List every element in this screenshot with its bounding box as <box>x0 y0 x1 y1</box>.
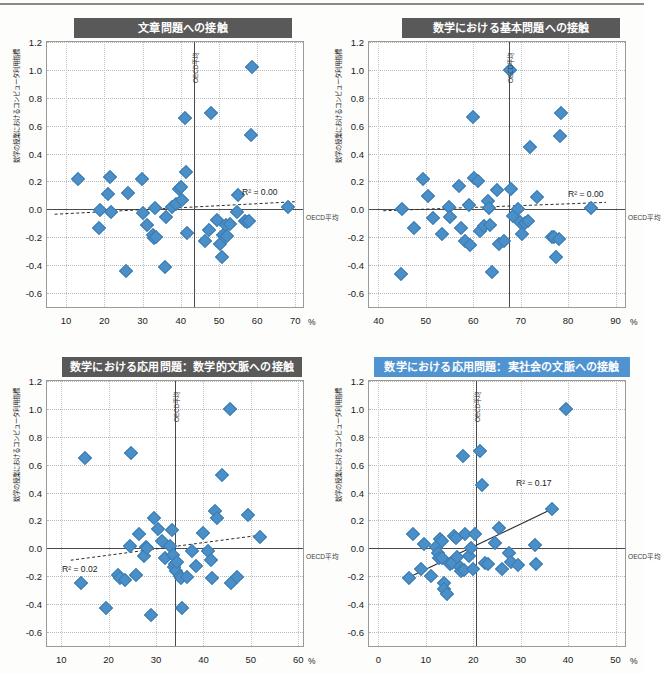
x-axis-tick-label: 40 <box>168 315 194 326</box>
y-axis-tick-label: 0.2 <box>338 515 364 526</box>
y-axis-tick-label: 0.0 <box>16 543 42 554</box>
y-axis-tick-label: -0.4 <box>338 260 364 271</box>
y-axis-tick-label: 1.2 <box>16 376 42 387</box>
y-axis-tick-label: -0.2 <box>16 571 42 582</box>
plot-area-1 <box>46 41 304 308</box>
x-axis-tick-label: 70 <box>508 315 534 326</box>
y-axis-tick-label: -0.4 <box>338 599 364 610</box>
x-axis-tick-label: 30 <box>130 315 156 326</box>
y-axis-tick-label: -0.4 <box>16 260 42 271</box>
x-axis-unit-label: % <box>308 317 316 327</box>
x-axis-tick-label: 60 <box>460 315 486 326</box>
chart-title-1: 文章問題への接触 <box>74 18 292 38</box>
y-axis-label: 数学の授業におけるコンピュータ利用指標 <box>12 388 21 502</box>
r-squared-annotation-3: R² = 0.02 <box>62 564 98 574</box>
oecd-average-horizontal-label: OECD平均 <box>628 212 661 222</box>
chart-title-2: 数学における基本問題への接触 <box>402 18 620 38</box>
y-axis-tick-label: 0.0 <box>338 204 364 215</box>
x-axis-tick-label: 50 <box>603 654 629 665</box>
oecd-average-vertical-label: OECD平均 <box>172 392 181 422</box>
y-axis-tick-label: -0.2 <box>338 571 364 582</box>
x-axis-tick-label: 70 <box>282 315 308 326</box>
x-axis-tick-label: 40 <box>555 654 581 665</box>
y-axis-tick-label: 0.2 <box>16 176 42 187</box>
y-axis-tick-label: 0.0 <box>338 543 364 554</box>
y-axis-label: 数学の授業におけるコンピュータ利用指標 <box>334 49 343 163</box>
r-squared-annotation-4: R² = 0.17 <box>516 478 552 488</box>
r-squared-annotation-1: R² = 0.00 <box>242 187 278 197</box>
x-axis-unit-label: % <box>308 656 316 666</box>
chart-panel-2: 数学における基本問題への接触1.21.00.80.60.40.20.0-0.2-… <box>322 0 644 337</box>
r-squared-annotation-2: R² = 0.00 <box>568 189 604 199</box>
y-axis-tick-label: -0.2 <box>338 232 364 243</box>
y-axis-tick-label: 1.2 <box>338 37 364 48</box>
x-axis-tick-label: 30 <box>508 654 534 665</box>
oecd-average-vertical-label: OECD平均 <box>473 392 482 422</box>
x-axis-tick-label: 10 <box>413 654 439 665</box>
x-axis-tick-label: 20 <box>91 315 117 326</box>
y-axis-label: 数学の授業におけるコンピュータ利用指標 <box>334 388 343 502</box>
chart-panel-3: 数学における応用問題：数学的文脈への接触1.21.00.80.60.40.20.… <box>0 337 322 674</box>
x-axis-tick-label: 60 <box>244 315 270 326</box>
trend-line-2 <box>369 42 625 307</box>
y-axis-tick-label: 1.2 <box>338 376 364 387</box>
y-axis-tick-label: 1.2 <box>16 37 42 48</box>
y-axis-tick-label: -0.6 <box>338 288 364 299</box>
y-axis-tick-label: -0.6 <box>16 627 42 638</box>
y-axis-tick-label: -0.6 <box>16 288 42 299</box>
plot-area-4 <box>368 380 626 647</box>
y-axis-label: 数学の授業におけるコンピュータ利用指標 <box>12 49 21 163</box>
y-axis-tick-label: 0.0 <box>16 204 42 215</box>
chart-title-4: 数学における応用問題：実社会の文脈への接触 <box>374 357 630 377</box>
x-axis-tick-label: 0 <box>365 654 391 665</box>
y-axis-tick-label: 0.2 <box>338 176 364 187</box>
chart-panel-1: 文章問題への接触1.21.00.80.60.40.20.0-0.2-0.4-0.… <box>0 0 322 337</box>
x-axis-tick-label: 90 <box>603 315 629 326</box>
x-axis-tick-label: 50 <box>413 315 439 326</box>
plot-area-2 <box>368 41 626 308</box>
x-axis-tick-label: 20 <box>96 654 122 665</box>
x-axis-tick-label: 50 <box>206 315 232 326</box>
x-axis-unit-label: % <box>630 656 638 666</box>
x-axis-tick-label: 40 <box>190 654 216 665</box>
x-axis-tick-label: 30 <box>143 654 169 665</box>
trend-line-4 <box>369 381 625 646</box>
x-axis-tick-label: 20 <box>460 654 486 665</box>
oecd-average-vertical-label: OECD平均 <box>191 53 200 83</box>
y-axis-tick-label: 0.2 <box>16 515 42 526</box>
x-axis-tick-label: 40 <box>365 315 391 326</box>
y-axis-tick-label: -0.6 <box>338 627 364 638</box>
chart-title-3: 数学における応用問題：数学的文脈への接触 <box>62 357 302 377</box>
x-axis-tick-label: 50 <box>238 654 264 665</box>
x-axis-unit-label: % <box>630 317 638 327</box>
oecd-average-vertical-label: OECD平均 <box>506 53 515 83</box>
oecd-average-horizontal-label: OECD平均 <box>628 551 661 561</box>
y-axis-tick-label: -0.4 <box>16 599 42 610</box>
x-axis-tick-label: 80 <box>555 315 581 326</box>
x-axis-tick-label: 10 <box>48 654 74 665</box>
y-axis-tick-label: -0.2 <box>16 232 42 243</box>
x-axis-tick-label: 10 <box>53 315 79 326</box>
trend-line-1 <box>47 42 303 307</box>
chart-panel-4: 数学における応用問題：実社会の文脈への接触1.21.00.80.60.40.20… <box>322 337 644 674</box>
